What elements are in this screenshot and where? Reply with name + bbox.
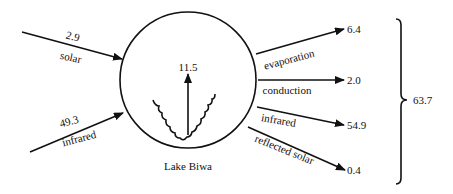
evaporation-output-value: 6.4 (347, 23, 361, 35)
infrared-input-value: 49.3 (58, 113, 80, 130)
reflected-solar-output-label: reflected solar (253, 132, 316, 167)
conduction-output-value: 2.0 (347, 74, 361, 86)
solar-input-value: 2.9 (65, 29, 82, 44)
upward-flux-value: 11.5 (179, 61, 198, 73)
energy-balance-diagram: 11.5 Lake Biwa 2.9 solar 49.3 infrared e… (0, 0, 453, 194)
reflected-solar-output-value: 0.4 (347, 164, 361, 176)
water-wave-icon (153, 94, 215, 140)
solar-input-label: solar (59, 49, 83, 65)
lake-label: Lake Biwa (164, 160, 212, 172)
infrared-output-value: 54.9 (347, 119, 367, 131)
total-brace (396, 19, 407, 184)
total-value: 63.7 (413, 94, 433, 106)
conduction-output-label: conduction (263, 84, 312, 96)
